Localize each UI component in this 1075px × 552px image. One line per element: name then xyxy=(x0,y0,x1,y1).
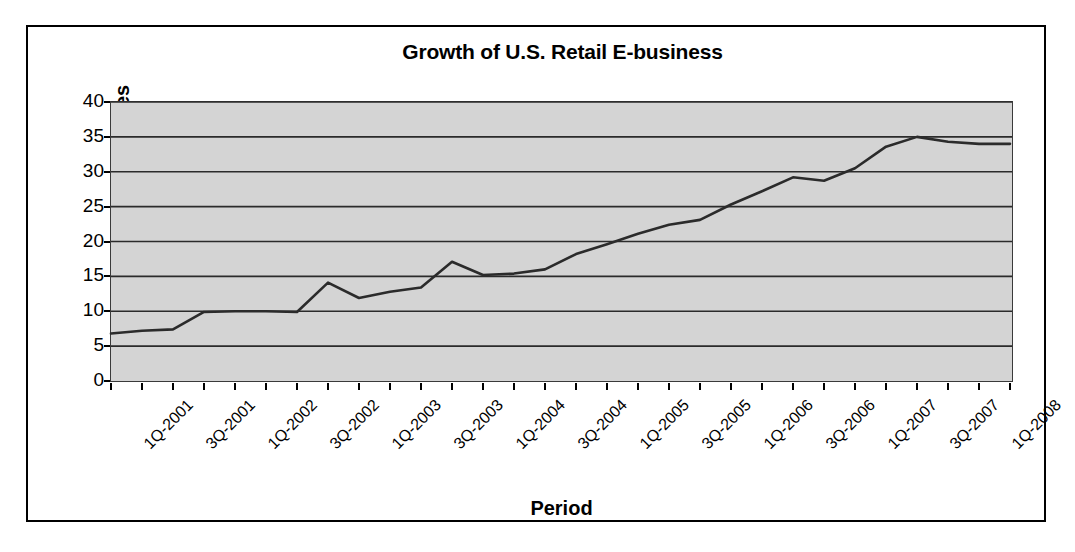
x-axis-tick-mark xyxy=(916,383,918,390)
plot-svg xyxy=(111,102,1012,381)
x-axis-tick-mark xyxy=(606,383,608,390)
x-axis-tick-labels: 1Q-20013Q-20011Q-20023Q-20021Q-20033Q-20… xyxy=(0,396,1075,486)
x-axis-tick-mark xyxy=(451,383,453,390)
x-axis-tick-label: 3Q-2004 xyxy=(574,396,631,453)
x-axis-tick-label: 1Q-2002 xyxy=(264,396,321,453)
plot-area xyxy=(110,101,1013,382)
x-axis-tick-label: 3Q-2003 xyxy=(450,396,507,453)
x-axis-tick-mark xyxy=(389,383,391,390)
chart-title: Growth of U.S. Retail E-business xyxy=(110,40,1015,64)
x-axis-title: Period xyxy=(110,497,1013,520)
gridlines xyxy=(111,102,1012,346)
x-axis-tick-mark xyxy=(761,383,763,390)
x-axis-tick-mark xyxy=(203,383,205,390)
x-axis-tick-mark xyxy=(172,383,174,390)
chart-figure: Growth of U.S. Retail E-business Billion… xyxy=(0,0,1075,552)
x-axis-tick-label: 3Q-2006 xyxy=(822,396,879,453)
x-axis-tick-mark xyxy=(978,383,980,390)
y-axis-tick-label: 40 xyxy=(64,90,104,112)
x-axis-tick-label: 1Q-2008 xyxy=(1008,396,1065,453)
y-axis-tick-label: 10 xyxy=(64,299,104,321)
y-axis-tick-label: 5 xyxy=(64,334,104,356)
y-axis-tick-label: 30 xyxy=(64,160,104,182)
x-axis-tick-label: 1Q-2003 xyxy=(388,396,445,453)
x-axis-tick-mark xyxy=(234,383,236,390)
x-axis-tick-mark xyxy=(854,383,856,390)
x-axis-tick-mark xyxy=(110,383,112,390)
x-axis-tick-label: 1Q-2006 xyxy=(760,396,817,453)
x-axis-tick-mark xyxy=(513,383,515,390)
x-axis-tick-label: 1Q-2001 xyxy=(140,396,197,453)
x-axis-tick-mark xyxy=(730,383,732,390)
y-axis-tick-label: 15 xyxy=(64,264,104,286)
data-series-line xyxy=(111,137,1010,334)
x-axis-tick-mark xyxy=(637,383,639,390)
x-axis-tick-mark xyxy=(668,383,670,390)
x-axis-tick-label: 1Q-2005 xyxy=(636,396,693,453)
x-axis-tick-mark xyxy=(885,383,887,390)
x-axis-tick-marks xyxy=(0,383,1075,392)
x-axis-tick-mark xyxy=(265,383,267,390)
x-axis-tick-mark xyxy=(1009,383,1011,390)
x-axis-tick-mark xyxy=(296,383,298,390)
y-axis-tick-label: 35 xyxy=(64,125,104,147)
x-axis-tick-mark xyxy=(358,383,360,390)
x-axis-tick-label: 3Q-2007 xyxy=(946,396,1003,453)
x-axis-tick-mark xyxy=(327,383,329,390)
x-axis-tick-mark xyxy=(947,383,949,390)
x-axis-tick-mark xyxy=(792,383,794,390)
x-axis-tick-label: 1Q-2004 xyxy=(512,396,569,453)
y-axis-tick-label: 20 xyxy=(64,230,104,252)
x-axis-tick-mark xyxy=(544,383,546,390)
x-axis-tick-mark xyxy=(420,383,422,390)
x-axis-tick-mark xyxy=(699,383,701,390)
x-axis-tick-mark xyxy=(482,383,484,390)
x-axis-tick-mark xyxy=(575,383,577,390)
x-axis-tick-label: 1Q-2007 xyxy=(884,396,941,453)
x-axis-tick-label: 3Q-2002 xyxy=(326,396,383,453)
x-axis-tick-mark xyxy=(141,383,143,390)
y-axis-tick-label: 25 xyxy=(64,195,104,217)
x-axis-tick-label: 3Q-2005 xyxy=(698,396,755,453)
x-axis-tick-mark xyxy=(823,383,825,390)
x-axis-tick-label: 3Q-2001 xyxy=(202,396,259,453)
